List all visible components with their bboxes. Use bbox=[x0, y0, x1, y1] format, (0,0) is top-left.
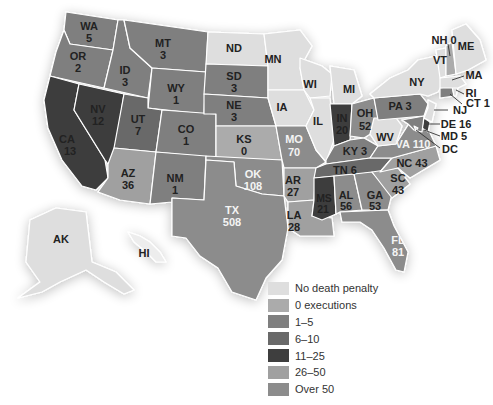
state-ia bbox=[268, 90, 314, 126]
label-nh: NH 0 bbox=[431, 34, 456, 46]
state-ak bbox=[18, 208, 134, 298]
label-il: IL bbox=[313, 115, 323, 127]
legend-label: Over 50 bbox=[295, 383, 334, 395]
label-ny: NY bbox=[409, 76, 425, 88]
label-ca: CA bbox=[59, 133, 75, 145]
value-co: 1 bbox=[183, 135, 189, 147]
label-az: AZ bbox=[121, 167, 136, 179]
label-sc: SC bbox=[390, 172, 405, 184]
state-ma bbox=[440, 76, 466, 88]
label-ma: MA bbox=[465, 69, 482, 81]
value-ga: 53 bbox=[369, 200, 381, 212]
value-sc: 43 bbox=[392, 184, 404, 196]
label-va: VA 110 bbox=[396, 138, 431, 150]
legend-swatch bbox=[268, 332, 289, 345]
value-in: 20 bbox=[336, 124, 348, 136]
value-al: 56 bbox=[340, 200, 352, 212]
label-ak: AK bbox=[53, 233, 69, 245]
label-ky: KY 3 bbox=[343, 145, 367, 157]
label-dc: DC bbox=[442, 143, 458, 155]
value-or: 2 bbox=[75, 62, 81, 74]
label-nm: NM bbox=[166, 172, 183, 184]
label-tn: TN 6 bbox=[333, 164, 357, 176]
label-wv: WV bbox=[376, 131, 394, 143]
label-ia: IA bbox=[277, 101, 288, 113]
label-ar: AR bbox=[285, 174, 301, 186]
label-ok: OK bbox=[245, 168, 262, 180]
legend-label: 6–10 bbox=[295, 333, 319, 345]
value-ms: 21 bbox=[317, 203, 329, 215]
label-wy: WY bbox=[167, 82, 185, 94]
label-md: MD 5 bbox=[441, 130, 467, 142]
legend-swatch bbox=[268, 315, 289, 328]
label-id: ID bbox=[120, 64, 131, 76]
legend-swatch bbox=[268, 282, 289, 295]
value-ne: 3 bbox=[231, 111, 237, 123]
label-la: LA bbox=[287, 209, 302, 221]
label-mi: MI bbox=[343, 83, 355, 95]
value-mt: 3 bbox=[160, 49, 166, 61]
label-ut: UT bbox=[131, 113, 146, 125]
value-nv: 12 bbox=[92, 115, 104, 127]
legend-swatch bbox=[268, 299, 289, 312]
value-ks: 0 bbox=[241, 145, 247, 157]
legend-item-11-25: 11–25 bbox=[268, 347, 378, 364]
legend-swatch bbox=[268, 366, 289, 379]
value-id: 3 bbox=[122, 76, 128, 88]
value-fl: 81 bbox=[392, 246, 404, 258]
label-ne: NE bbox=[226, 99, 241, 111]
label-ks: KS bbox=[236, 133, 251, 145]
label-in: IN bbox=[337, 112, 348, 124]
label-vt: VT bbox=[433, 54, 447, 66]
label-nc: NC 43 bbox=[396, 157, 427, 169]
legend-label: 1–5 bbox=[295, 316, 313, 328]
value-wa: 5 bbox=[86, 32, 92, 44]
label-wa: WA bbox=[80, 20, 98, 32]
value-mo: 70 bbox=[288, 146, 300, 158]
label-mt: MT bbox=[155, 37, 171, 49]
value-nm: 1 bbox=[172, 184, 178, 196]
legend-label: 11–25 bbox=[295, 350, 325, 362]
label-pa: PA 3 bbox=[388, 100, 411, 112]
value-la: 28 bbox=[288, 221, 300, 233]
legend-swatch bbox=[268, 349, 289, 362]
legend-item-1-5: 1–5 bbox=[268, 314, 378, 331]
label-nv: NV bbox=[90, 103, 106, 115]
legend-item-6-10: 6–10 bbox=[268, 330, 378, 347]
legend-item-26-50: 26–50 bbox=[268, 364, 378, 381]
value-oh: 52 bbox=[359, 120, 371, 132]
label-nd: ND bbox=[226, 42, 242, 54]
label-me: ME bbox=[458, 40, 475, 52]
value-ok: 108 bbox=[244, 180, 262, 192]
label-hi: HI bbox=[139, 247, 150, 259]
label-oh: OH bbox=[357, 107, 374, 119]
label-nj: NJ bbox=[453, 104, 467, 116]
legend: No death penalty 0 executions 1–5 6–10 1… bbox=[268, 280, 378, 398]
label-or: OR bbox=[70, 50, 87, 62]
value-ar: 27 bbox=[287, 186, 299, 198]
label-co: CO bbox=[178, 123, 195, 135]
label-mo: MO bbox=[285, 133, 303, 145]
label-tx: TX bbox=[225, 204, 240, 216]
value-ut: 7 bbox=[135, 125, 141, 137]
value-sd: 3 bbox=[231, 82, 237, 94]
value-tx: 508 bbox=[223, 216, 241, 228]
legend-label: 26–50 bbox=[295, 366, 326, 378]
legend-item-no-death-penalty: No death penalty bbox=[268, 280, 378, 297]
value-wy: 1 bbox=[173, 94, 179, 106]
label-ri: RI bbox=[466, 87, 477, 99]
legend-item-over-50: Over 50 bbox=[268, 381, 378, 398]
legend-swatch bbox=[268, 383, 289, 396]
label-mn: MN bbox=[264, 53, 281, 65]
legend-label: 0 executions bbox=[295, 299, 357, 311]
value-ca: 13 bbox=[64, 145, 76, 157]
us-executions-map: WA 5 OR 2 CA 13 NV 12 ID 3 MT 3 WY 1 UT … bbox=[0, 0, 493, 405]
legend-item-0-executions: 0 executions bbox=[268, 297, 378, 314]
legend-label: No death penalty bbox=[295, 282, 378, 294]
label-wi: WI bbox=[303, 78, 316, 90]
label-de: DE 16 bbox=[441, 118, 472, 130]
value-az: 36 bbox=[122, 179, 134, 191]
label-fl: FL bbox=[391, 234, 405, 246]
label-sd: SD bbox=[226, 70, 241, 82]
